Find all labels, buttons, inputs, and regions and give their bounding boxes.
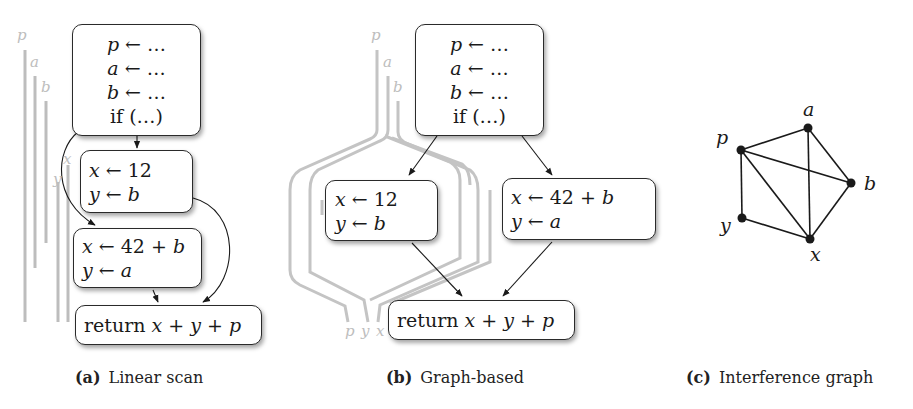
linear-exit-block: return x + y + p xyxy=(75,305,262,345)
code-line: y ← a xyxy=(511,209,655,233)
graph-entry-block: p ← … a ← … b ← … if (…) xyxy=(415,24,544,136)
node-label-x: x xyxy=(810,243,821,265)
code-line: y ← b xyxy=(335,211,437,235)
graph-exit-block: return x + y + p xyxy=(388,300,575,340)
code-line: x ← 42 + b xyxy=(511,185,655,209)
code-line: a ← … xyxy=(416,56,543,80)
node-label-y: y xyxy=(720,214,731,236)
code-line: y ← b xyxy=(89,182,192,206)
code-line: a ← … xyxy=(73,56,200,80)
caption-b: (b)Graph-based xyxy=(386,368,524,387)
node-label-a: a xyxy=(803,98,814,120)
rope-label-x-bottom: x xyxy=(376,322,384,340)
code-line: p ← … xyxy=(416,32,543,56)
edge-p-b xyxy=(741,150,851,183)
caption-text: Interference graph xyxy=(719,368,873,387)
node-b xyxy=(847,179,856,188)
rope-label-p: p xyxy=(371,26,381,44)
caption-tag: (c) xyxy=(686,368,711,387)
code-line: x ← 42 + b xyxy=(82,234,201,258)
edge-p-y xyxy=(741,150,742,218)
code-line: b ← … xyxy=(73,80,200,104)
code-line: y ← a xyxy=(82,258,201,282)
code-line: p ← … xyxy=(73,32,200,56)
edge-b-x xyxy=(810,183,851,239)
node-label-p: p xyxy=(716,126,728,148)
caption-text: Linear scan xyxy=(109,368,204,387)
caption-a: (a)Linear scan xyxy=(75,368,203,387)
node-label-b: b xyxy=(864,172,876,194)
caption-text: Graph-based xyxy=(420,368,524,387)
code-line: b ← … xyxy=(416,80,543,104)
code-line: x ← 12 xyxy=(89,158,192,182)
node-p xyxy=(737,146,746,155)
lifetime-label-b: b xyxy=(41,78,51,96)
edge-p-x xyxy=(741,150,810,239)
linear-then-block: x ← 12 y ← b xyxy=(80,150,193,213)
edge-p-a xyxy=(741,128,808,150)
rope-label-y-bottom: y xyxy=(361,322,369,340)
lifetime-label-p: p xyxy=(17,26,27,44)
graph-then-block: x ← 12 y ← b xyxy=(325,180,438,241)
code-line: x ← 12 xyxy=(335,187,437,211)
rope-label-a: a xyxy=(383,53,392,71)
caption-tag: (a) xyxy=(75,368,101,387)
edge-y-x xyxy=(742,218,810,239)
code-line: if (…) xyxy=(416,104,543,128)
lifetime-label-x: x xyxy=(63,150,71,168)
code-line: if (…) xyxy=(73,104,200,128)
caption-c: (c)Interference graph xyxy=(686,368,873,387)
linear-entry-block: p ← … a ← … b ← … if (…) xyxy=(72,24,201,136)
code-line: return x + y + p xyxy=(84,313,261,337)
graph-else-block: x ← 42 + b y ← a xyxy=(502,178,656,240)
linear-else-block: x ← 42 + b y ← a xyxy=(73,228,202,288)
caption-tag: (b) xyxy=(386,368,412,387)
lifetime-label-y: y xyxy=(53,170,61,188)
edge-a-x xyxy=(808,128,810,239)
interference-graph xyxy=(741,128,851,239)
node-y xyxy=(738,214,747,223)
rope-label-b: b xyxy=(393,78,403,96)
code-line: return x + y + p xyxy=(397,308,574,332)
node-a xyxy=(804,124,813,133)
edge-a-b xyxy=(808,128,851,183)
rope-label-p-bottom: p xyxy=(345,322,355,340)
lifetime-label-a: a xyxy=(30,53,39,71)
